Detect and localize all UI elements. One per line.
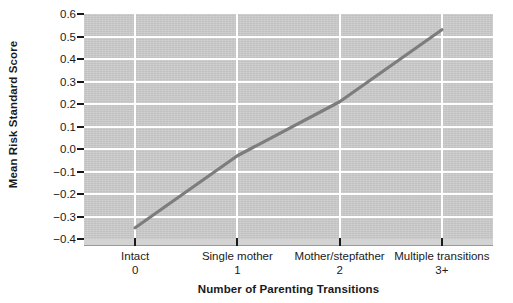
- x-axis-category: Intact0: [121, 249, 149, 278]
- x-axis-category-name: Multiple transitions: [394, 249, 489, 263]
- y-axis-tick-mark: [77, 103, 84, 105]
- y-axis-tick-label: 0.1: [36, 121, 76, 133]
- y-axis-tick-mark: [77, 171, 84, 173]
- x-axis-tick-mark: [236, 238, 238, 246]
- y-axis-tick-mark: [77, 193, 84, 195]
- y-axis-tick-label: 0.0: [36, 143, 76, 155]
- y-axis-tick-label: 0.2: [36, 98, 76, 110]
- plot-area: [84, 14, 493, 239]
- x-axis-category-value: 1: [202, 263, 273, 278]
- y-axis-tick-mark: [77, 13, 84, 15]
- x-axis-category: Single mother1: [202, 249, 273, 278]
- x-axis-tick-mark: [134, 238, 136, 246]
- y-axis-tick-mark: [77, 126, 84, 128]
- x-axis-category: Multiple transitions3+: [394, 249, 489, 278]
- x-axis-tick-mark: [441, 238, 443, 246]
- y-axis-tick-label: −0.3: [36, 211, 76, 223]
- y-axis-tick-label: −0.4: [36, 233, 76, 245]
- x-axis-category-name: Intact: [121, 249, 149, 263]
- y-axis-tick-mark: [77, 216, 84, 218]
- y-axis-tick-labels: 0.60.50.40.30.20.10.0−0.1−0.2−0.3−0.4: [36, 0, 76, 303]
- x-axis-category-name: Mother/stepfather: [295, 249, 385, 263]
- series-line: [84, 14, 493, 239]
- x-axis-category-value: 3+: [394, 263, 489, 278]
- y-axis-tick-label: 0.3: [36, 76, 76, 88]
- y-axis-tick-label: 0.4: [36, 53, 76, 65]
- x-axis-category-labels: Intact0Single mother1Mother/stepfather2M…: [84, 249, 493, 281]
- x-axis-category-value: 0: [121, 263, 149, 278]
- y-axis-tick-mark: [77, 238, 84, 240]
- x-axis-tick-mark: [339, 238, 341, 246]
- y-axis-tick-mark: [77, 148, 84, 150]
- y-axis-tick-mark: [77, 36, 84, 38]
- x-axis-title: Number of Parenting Transitions: [84, 283, 493, 295]
- y-axis-tick-label: 0.6: [36, 8, 76, 20]
- x-axis-category: Mother/stepfather2: [295, 249, 385, 278]
- y-axis-tick-mark: [77, 58, 84, 60]
- y-axis-title: Mean Risk Standard Score: [0, 2, 26, 227]
- y-axis-tick-mark: [77, 81, 84, 83]
- x-axis-category-value: 2: [295, 263, 385, 278]
- y-axis-tick-label: −0.2: [36, 188, 76, 200]
- y-axis-tick-label: −0.1: [36, 166, 76, 178]
- x-axis-tick-marks: [84, 238, 493, 246]
- x-axis-category-name: Single mother: [202, 249, 273, 263]
- y-axis-tick-label: 0.5: [36, 31, 76, 43]
- chart-figure: Mean Risk Standard Score 0.60.50.40.30.2…: [0, 0, 513, 303]
- y-axis-tick-marks: [77, 0, 84, 303]
